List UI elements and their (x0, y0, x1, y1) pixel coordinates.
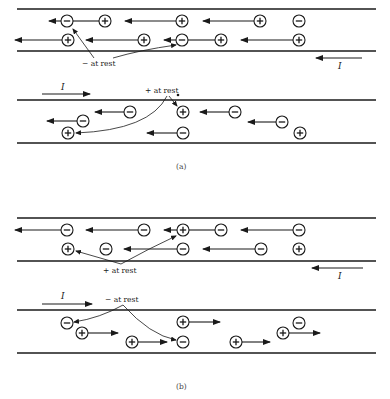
current-label: I (60, 82, 65, 92)
positive-charge-icon (294, 127, 306, 139)
positive-charge-icon (277, 327, 289, 339)
negative-charge-icon (124, 106, 136, 118)
rest-label: − at rest (82, 59, 115, 68)
positive-charge-icon (293, 34, 305, 46)
positive-charge-icon (230, 336, 242, 348)
caption-a: (a) (176, 162, 186, 171)
dot (177, 94, 180, 97)
positive-charge-icon (254, 15, 266, 27)
negative-charge-icon (100, 243, 112, 255)
current-label: I (337, 61, 342, 71)
negative-charge-icon (61, 317, 73, 329)
positive-charge-icon (176, 15, 188, 27)
rest-pointer (76, 96, 167, 133)
positive-charge-icon (62, 34, 74, 46)
negative-charge-icon (255, 243, 267, 255)
positive-charge-icon (126, 336, 138, 348)
negative-charge-icon (215, 224, 227, 236)
negative-charge-icon (177, 243, 189, 255)
current-label: I (60, 291, 65, 301)
negative-charge-icon (176, 34, 188, 46)
positive-charge-icon (62, 127, 74, 139)
positive-charge-icon (76, 327, 88, 339)
negative-charge-icon (77, 115, 89, 127)
rest-pointer (74, 305, 123, 322)
negative-charge-icon (177, 336, 189, 348)
positive-charge-icon (62, 243, 74, 255)
rest-pointer (76, 251, 121, 264)
caption-b: (b) (176, 382, 187, 391)
panel-a: I − at rest I + at rest (a) (17, 9, 376, 171)
rest-pointer (121, 236, 176, 264)
negative-charge-icon (177, 127, 189, 139)
negative-charge-icon (293, 317, 305, 329)
positive-charge-icon (177, 316, 189, 328)
current-label: I (337, 271, 342, 281)
positive-charge-icon (138, 34, 150, 46)
negative-charge-icon (276, 116, 288, 128)
rest-label: + at rest (145, 86, 178, 95)
positive-charge-icon (177, 106, 189, 118)
negative-charge-icon (293, 15, 305, 27)
rest-label: + at rest (103, 266, 136, 275)
charge-motion-diagram: I − at rest I + at rest (a) I + at rest (0, 0, 390, 399)
negative-charge-icon (61, 224, 73, 236)
negative-charge-icon (138, 224, 150, 236)
positive-charge-icon (177, 224, 189, 236)
positive-charge-icon (293, 243, 305, 255)
negative-charge-icon (293, 224, 305, 236)
rest-label: − at rest (105, 295, 138, 304)
rest-pointer (169, 96, 177, 106)
negative-charge-icon (229, 106, 241, 118)
rest-pointer (73, 29, 94, 58)
positive-charge-icon (99, 15, 111, 27)
positive-charge-icon (215, 34, 227, 46)
negative-charge-icon (61, 15, 73, 27)
